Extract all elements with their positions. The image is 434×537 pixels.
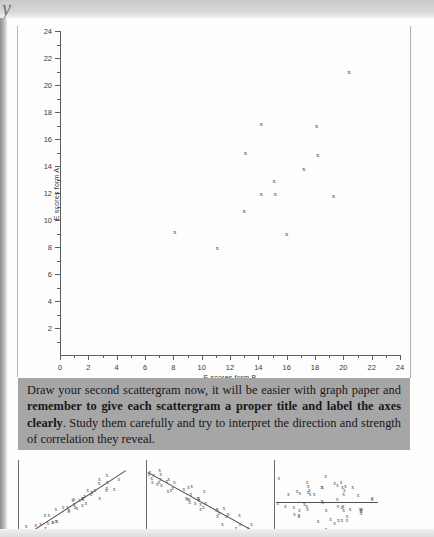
mini-data-point: x xyxy=(321,485,324,491)
y-tick-major xyxy=(55,85,60,86)
mini-data-point: x xyxy=(329,517,332,523)
x-tick-major xyxy=(117,355,118,360)
mini-data-point: x xyxy=(113,487,116,493)
mini-trend-line xyxy=(276,502,378,503)
mini-data-point: x xyxy=(73,502,76,508)
y-tick-label: 18 xyxy=(44,108,52,117)
mini-data-point: x xyxy=(297,513,300,519)
mini-data-point: x xyxy=(156,482,159,488)
mini-data-point: x xyxy=(186,497,189,503)
x-tick-minor xyxy=(273,355,274,358)
scattergram-figure: 24681012141618202224 0246810121416182022… xyxy=(22,26,410,378)
y-tick-major xyxy=(55,274,60,275)
instruction-callout: Draw your second scattergram now, it wil… xyxy=(18,378,410,450)
x-tick-label: 10 xyxy=(197,363,205,372)
x-tick-label: 24 xyxy=(396,363,404,372)
x-tick-minor xyxy=(188,355,189,358)
y-tick-label: 22 xyxy=(44,54,52,63)
mini-data-point: x xyxy=(98,496,101,502)
mini-data-point: x xyxy=(194,501,197,507)
y-tick-minor xyxy=(57,234,60,235)
x-tick-major xyxy=(202,355,203,360)
data-point-marker: x xyxy=(313,122,320,130)
mini-data-point: x xyxy=(359,508,362,514)
data-point-marker: x xyxy=(314,151,321,159)
x-tick-label: 0 xyxy=(58,363,62,372)
x-tick-major xyxy=(315,355,316,360)
x-tick-minor xyxy=(358,355,359,358)
mini-data-point: x xyxy=(250,522,253,528)
callout-text-part-1: Draw your second scattergram now, it wil… xyxy=(27,383,401,397)
mini-data-point: x xyxy=(276,501,279,507)
y-tick-minor xyxy=(57,288,60,289)
mini-data-point: x xyxy=(151,480,154,486)
y-tick-label: 20 xyxy=(44,81,52,90)
x-tick-minor xyxy=(74,355,75,358)
mini-data-point: x xyxy=(292,505,295,511)
y-tick-label: 2 xyxy=(48,324,52,333)
mini-data-point: x xyxy=(160,483,163,489)
mini-data-point: x xyxy=(171,486,174,492)
page-rule-right xyxy=(410,26,411,378)
x-tick-minor xyxy=(103,355,104,358)
mini-data-point: x xyxy=(118,477,121,483)
data-point-marker: x xyxy=(241,207,248,215)
x-tick-label: 4 xyxy=(115,363,119,372)
mini-data-point: x xyxy=(98,477,101,483)
mini-data-point: x xyxy=(217,511,220,517)
partial-text-artifact: y xyxy=(2,0,24,18)
mini-data-point: x xyxy=(223,506,226,512)
mini-data-point: x xyxy=(342,508,345,514)
mini-data-point: x xyxy=(333,521,336,527)
x-tick-label: 20 xyxy=(339,363,347,372)
y-tick-label: 12 xyxy=(44,189,52,198)
x-tick-label: 8 xyxy=(171,363,175,372)
mini-data-point: x xyxy=(341,518,344,524)
x-tick-major xyxy=(230,355,231,360)
mini-data-point: x xyxy=(62,505,65,511)
mini-data-point: x xyxy=(337,518,340,524)
y-axis-title: E scores form A xyxy=(53,167,60,219)
mini-data-point: x xyxy=(159,472,162,478)
y-tick-major xyxy=(55,139,60,140)
mini-data-point: x xyxy=(106,480,109,486)
x-tick-major xyxy=(173,355,174,360)
mini-data-point: x xyxy=(293,512,296,518)
mini-data-point: x xyxy=(357,493,360,499)
mini-data-point: x xyxy=(48,513,51,519)
mini-data-point: x xyxy=(351,485,354,491)
y-tick-major xyxy=(55,328,60,329)
mini-data-point: x xyxy=(167,477,170,483)
mini-axis-line xyxy=(18,460,19,537)
y-tick-label: 8 xyxy=(48,243,52,252)
y-tick-minor xyxy=(57,99,60,100)
mini-data-point: x xyxy=(324,474,327,480)
y-tick-major xyxy=(55,112,60,113)
y-tick-minor xyxy=(57,153,60,154)
x-tick-major xyxy=(372,355,373,360)
data-point-marker: x xyxy=(283,230,290,238)
mini-data-point: x xyxy=(44,513,47,519)
data-point-marker: x xyxy=(330,192,337,200)
mini-data-point: x xyxy=(238,513,241,519)
y-tick-minor xyxy=(57,72,60,73)
mini-data-point: x xyxy=(85,501,88,507)
mini-data-point: x xyxy=(303,502,306,508)
mini-data-point: x xyxy=(336,497,339,503)
y-axis-line xyxy=(60,31,61,356)
y-tick-minor xyxy=(57,315,60,316)
mini-data-point: x xyxy=(346,514,349,520)
page-rule-left xyxy=(17,26,18,377)
x-tick-major xyxy=(400,355,401,360)
mini-data-point: x xyxy=(106,473,109,479)
mini-data-point: x xyxy=(93,488,96,494)
data-point-marker: x xyxy=(258,190,265,198)
mini-data-point: x xyxy=(56,519,59,525)
mini-data-point: x xyxy=(227,512,230,518)
mini-plot-positive-correlation: xxxxxxxxxxxxxxxxxxxxxxxxxxxxxxxxxxxxxxxx… xyxy=(18,458,138,537)
callout-text-part-2: . Study them carefully and try to interp… xyxy=(27,416,401,446)
y-tick-major xyxy=(55,247,60,248)
y-tick-major xyxy=(55,301,60,302)
mini-data-point: x xyxy=(284,504,287,510)
data-point-marker: x xyxy=(300,165,307,173)
